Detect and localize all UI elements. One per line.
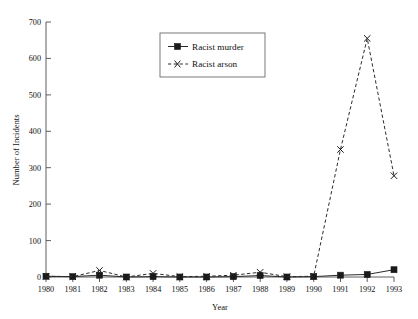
x-tick-label-1992: 1992 xyxy=(359,285,375,294)
legend-label-racist-murder: Racist murder xyxy=(192,42,244,52)
x-axis-title: Year xyxy=(212,302,228,312)
y-tick-label-200: 200 xyxy=(29,200,41,209)
y-tick-100: 100 xyxy=(29,237,51,246)
x-tick-label-1980: 1980 xyxy=(38,285,54,294)
x-axis-group: 1980 1981 1982 1983 1984 1985 xyxy=(38,277,402,312)
x-tick-label-1981: 1981 xyxy=(65,285,81,294)
x-tick-label-1993: 1993 xyxy=(386,285,402,294)
y-tick-label-500: 500 xyxy=(29,91,41,100)
y-tick-500: 500 xyxy=(29,91,51,100)
y-tick-300: 300 xyxy=(29,164,51,173)
x-tick-label-1985: 1985 xyxy=(172,285,188,294)
y-tick-200: 200 xyxy=(29,200,51,209)
x-tick-label-1989: 1989 xyxy=(279,285,295,294)
filled-square-marker-icon xyxy=(391,267,397,273)
y-tick-label-700: 700 xyxy=(29,18,41,27)
x-tick-label-1986: 1986 xyxy=(198,285,214,294)
chart-figure: 700 600 500 400 300 200 xyxy=(0,0,418,319)
x-tick-label-1987: 1987 xyxy=(225,285,241,294)
x-tick-label-1984: 1984 xyxy=(145,285,161,294)
x-tick-label-1990: 1990 xyxy=(306,285,322,294)
y-tick-label-600: 600 xyxy=(29,54,41,63)
y-tick-600: 600 xyxy=(29,54,51,63)
x-tick-1992: 1992 xyxy=(359,277,375,294)
y-tick-label-300: 300 xyxy=(29,164,41,173)
x-tick-label-1983: 1983 xyxy=(118,285,134,294)
x-tick-1991: 1991 xyxy=(332,277,348,294)
legend-label-racist-arson: Racist arson xyxy=(192,59,238,69)
filled-square-marker-icon xyxy=(175,44,181,50)
y-tick-label-0: 0 xyxy=(37,273,41,282)
x-tick-label-1988: 1988 xyxy=(252,285,268,294)
filled-square-marker-icon xyxy=(337,272,343,278)
legend-box xyxy=(160,33,265,77)
y-tick-400: 400 xyxy=(29,127,51,136)
x-tick-1988: 1988 xyxy=(252,277,268,294)
legend: Racist murder Racist arson xyxy=(160,33,265,77)
y-tick-label-100: 100 xyxy=(29,237,41,246)
y-tick-700: 700 xyxy=(29,18,51,27)
y-tick-label-400: 400 xyxy=(29,127,41,136)
filled-square-marker-icon xyxy=(364,271,370,277)
x-tick-label-1991: 1991 xyxy=(332,285,348,294)
x-tick-1993: 1993 xyxy=(386,277,402,294)
filled-square-marker-icon xyxy=(204,274,210,280)
line-chart-canvas: 700 600 500 400 300 200 xyxy=(0,0,418,319)
y-axis-group: 700 600 500 400 300 200 xyxy=(11,18,51,282)
x-tick-1982: 1982 xyxy=(91,277,107,294)
filled-square-marker-icon xyxy=(257,273,263,279)
y-axis-title: Number of Incidents xyxy=(11,114,21,186)
x-tick-label-1982: 1982 xyxy=(91,285,107,294)
filled-square-marker-icon xyxy=(150,274,156,280)
